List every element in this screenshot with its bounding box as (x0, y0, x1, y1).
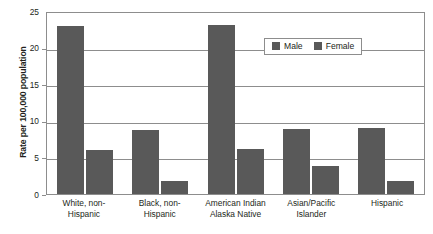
y-tick-mark (42, 195, 46, 196)
y-tick-label: 5 (19, 154, 39, 162)
y-tick-label: 20 (19, 44, 39, 52)
bar-male (132, 130, 159, 194)
x-category-label-line: Hispanic (123, 209, 197, 220)
x-category-label-line: Hispanic (47, 209, 121, 220)
bar-female (312, 166, 339, 194)
x-category-label: White, non-Hispanic (46, 198, 122, 232)
bar-male (358, 128, 385, 194)
legend-item-female: Female (314, 42, 355, 51)
bar-male (57, 26, 84, 194)
x-category-label-line: Asian/Pacific (274, 198, 348, 209)
bar-female (237, 149, 264, 194)
y-tick-label: 25 (19, 8, 39, 16)
bar-chart: Rate per 100,000 population 0510152025 M… (0, 0, 433, 234)
x-category-label: Hispanic (349, 198, 425, 232)
x-category-label-line: Islander (274, 209, 348, 220)
bar-group (47, 13, 122, 194)
bar-group (122, 13, 197, 194)
bar-female (161, 181, 188, 194)
bar-groups (47, 13, 424, 194)
plot-area (46, 12, 425, 195)
bar-male (208, 25, 235, 194)
bar-female (387, 181, 414, 194)
legend-swatch-male-icon (272, 42, 280, 50)
x-category-label-line: Alaska Native (199, 209, 273, 220)
x-axis-category-labels: White, non-HispanicBlack, non-HispanicAm… (46, 198, 425, 232)
legend-label-female: Female (326, 42, 355, 51)
y-axis-title: Rate per 100,000 population (18, 12, 28, 192)
x-category-label-line: Hispanic (350, 198, 424, 209)
legend-label-male: Male (284, 42, 303, 51)
x-category-label-line: Black, non- (123, 198, 197, 209)
chart-legend: Male Female (264, 38, 362, 55)
x-category-label: American IndianAlaska Native (198, 198, 274, 232)
bar-male (283, 129, 310, 194)
x-category-label-line: White, non- (47, 198, 121, 209)
x-category-label-line: American Indian (199, 198, 273, 209)
legend-item-male: Male (272, 42, 303, 51)
x-category-label: Black, non-Hispanic (122, 198, 198, 232)
bar-female (86, 150, 113, 194)
bar-group (198, 13, 273, 194)
y-tick-label: 10 (19, 117, 39, 125)
y-tick-label: 0 (19, 191, 39, 199)
x-category-label: Asian/PacificIslander (273, 198, 349, 232)
legend-swatch-female-icon (314, 42, 322, 50)
y-tick-label: 15 (19, 81, 39, 89)
